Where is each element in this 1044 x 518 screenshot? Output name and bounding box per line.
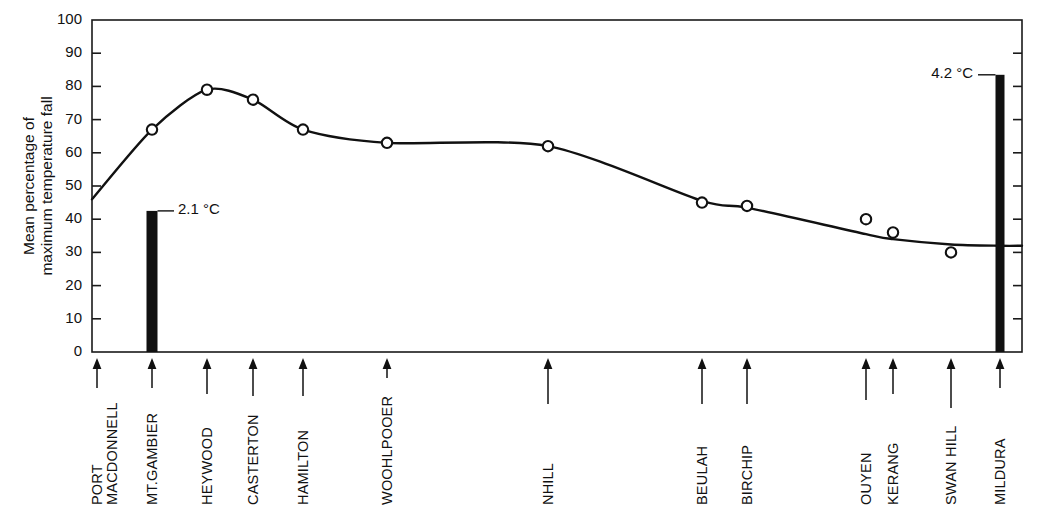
category-label: MILDURA — [992, 438, 1008, 505]
bar-mildura — [996, 75, 1005, 352]
chart-figure: 0102030405060708090100Mean percentage of… — [0, 0, 1044, 518]
bar-mt-gambier — [147, 211, 158, 352]
axis-arrow-head — [93, 358, 102, 369]
data-point — [248, 94, 258, 104]
y-tick-label: 90 — [65, 43, 82, 60]
y-tick-label: 70 — [65, 110, 82, 127]
data-point — [543, 141, 553, 151]
category-marker[interactable]: HAMILTON — [295, 358, 311, 505]
data-point — [298, 124, 308, 134]
data-point — [697, 197, 707, 207]
category-marker[interactable]: PORTMACDONNELL — [89, 358, 120, 505]
category-marker[interactable]: CASTERTON — [245, 358, 261, 505]
data-point — [742, 201, 752, 211]
y-axis-title-text: Mean percentage ofmaximum temperature fa… — [20, 96, 55, 275]
data-point — [147, 124, 157, 134]
category-label: SWAN HILL — [943, 426, 959, 505]
data-point — [861, 214, 871, 224]
category-label: MT.GAMBIER — [144, 413, 160, 505]
category-marker[interactable]: KERANG — [885, 358, 901, 505]
axis-arrow-head — [698, 358, 707, 369]
y-tick-label: 20 — [65, 276, 82, 293]
data-point — [946, 247, 956, 257]
axis-arrow-head — [947, 358, 956, 369]
axis-arrow-head — [889, 358, 898, 369]
y-tick-label: 100 — [57, 10, 82, 27]
category-label: WOOHLPOOER — [379, 396, 395, 505]
category-label: CASTERTON — [245, 414, 261, 505]
category-marker[interactable]: WOOHLPOOER — [379, 358, 395, 505]
y-tick-label: 30 — [65, 242, 82, 259]
axis-arrow-head — [743, 358, 752, 369]
category-label: OUYEN — [858, 452, 874, 505]
category-label: BIRCHIP — [739, 445, 755, 505]
axis-arrow-head — [203, 358, 212, 369]
y-axis-title: Mean percentage ofmaximum temperature fa… — [20, 96, 55, 275]
data-point — [202, 85, 212, 95]
category-axis: PORTMACDONNELLMT.GAMBIERHEYWOODCASTERTON… — [89, 358, 1008, 505]
plot-frame — [92, 20, 1022, 352]
category-label: NHILL — [540, 463, 556, 505]
data-point — [888, 227, 898, 237]
category-label: HEYWOOD — [199, 427, 215, 505]
axis-arrow-head — [862, 358, 871, 369]
bar-value-label: 2.1 °C — [178, 200, 220, 217]
axis-arrow-head — [148, 358, 157, 369]
plot-border — [92, 20, 1022, 352]
axis-arrow-head — [544, 358, 553, 369]
category-marker[interactable]: BIRCHIP — [739, 358, 755, 505]
category-marker[interactable]: HEYWOOD — [199, 358, 215, 505]
y-tick-label: 80 — [65, 76, 82, 93]
temperature-fall-chart: 0102030405060708090100Mean percentage of… — [0, 0, 1044, 518]
category-label: BEULAH — [694, 446, 710, 505]
category-marker[interactable]: OUYEN — [858, 358, 874, 505]
y-tick-label: 50 — [65, 176, 82, 193]
axis-arrow-head — [299, 358, 308, 369]
axis-arrow-head — [996, 358, 1005, 369]
category-label: PORTMACDONNELL — [89, 402, 120, 505]
axis-arrow-head — [383, 358, 392, 369]
y-tick-label: 60 — [65, 143, 82, 160]
data-point — [382, 138, 392, 148]
y-tick-label: 0 — [74, 342, 82, 359]
category-label: KERANG — [885, 443, 901, 505]
axis-arrow-head — [249, 358, 258, 369]
category-marker[interactable]: SWAN HILL — [943, 358, 959, 505]
category-marker[interactable]: MILDURA — [992, 358, 1008, 505]
category-marker[interactable]: NHILL — [540, 358, 556, 505]
y-tick-label: 40 — [65, 209, 82, 226]
bar-value-label: 4.2 °C — [931, 64, 973, 81]
y-tick-label: 10 — [65, 309, 82, 326]
category-label: HAMILTON — [295, 430, 311, 505]
category-marker[interactable]: BEULAH — [694, 358, 710, 505]
category-marker[interactable]: MT.GAMBIER — [144, 358, 160, 505]
